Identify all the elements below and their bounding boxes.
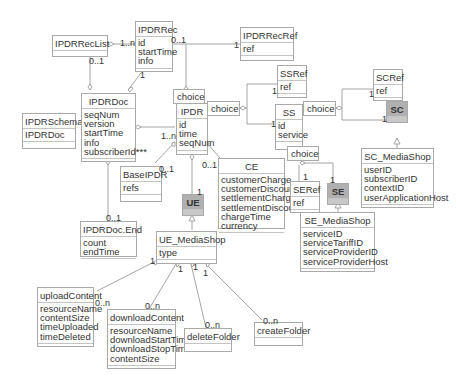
attribute: type bbox=[159, 248, 214, 257]
multiplicity-label: 0..1 bbox=[89, 56, 104, 66]
multiplicity-label: 0..n bbox=[145, 301, 160, 311]
multiplicity-label: 1 bbox=[178, 264, 183, 274]
attribute: contentSize bbox=[110, 354, 173, 363]
class-name: BaseIPDR bbox=[121, 167, 161, 182]
multiplicity-label: 1..n bbox=[161, 131, 176, 141]
class-ipdrdoc-end[interactable]: IPDRDoc.End count endTime bbox=[80, 221, 137, 257]
multiplicity-label: 0..n bbox=[95, 298, 110, 308]
operations-compartment bbox=[23, 142, 75, 150]
attributes-compartment: resourceName contentSize timeUploaded ti… bbox=[38, 303, 93, 344]
class-name: deleteFolder bbox=[185, 329, 231, 344]
class-ipdrrecref[interactable]: IPDRRecRef ref bbox=[240, 27, 294, 61]
multiplicity-label: 1 bbox=[234, 40, 239, 50]
class-name: IPDRSchema bbox=[23, 114, 75, 129]
class-name: UE_MediaShop bbox=[157, 232, 216, 247]
multiplicity-label: 1 bbox=[197, 187, 202, 197]
attribute: ref bbox=[243, 44, 291, 53]
attributes-compartment: IPDRDoc bbox=[23, 129, 75, 142]
attributes-compartment: refs bbox=[121, 182, 161, 195]
class-name: SCRef bbox=[374, 70, 402, 85]
operations-compartment bbox=[121, 195, 161, 203]
operations-compartment bbox=[278, 94, 306, 102]
operations-compartment bbox=[38, 344, 93, 352]
class-ipdr[interactable]: IPDR id time seqNum bbox=[176, 103, 208, 155]
multiplicity-label: 1 bbox=[203, 268, 208, 278]
attribute: ref bbox=[293, 198, 317, 207]
multiplicity-label: 1 bbox=[303, 172, 308, 182]
attribute: service bbox=[278, 130, 300, 139]
class-ssref[interactable]: SSRef ref bbox=[277, 65, 307, 98]
class-downloadcontent[interactable]: downloadContent resourceName downloadSta… bbox=[107, 309, 176, 369]
class-deletefolder[interactable]: deleteFolder bbox=[184, 328, 232, 352]
class-uploadcontent[interactable]: uploadContent resourceName contentSize t… bbox=[37, 287, 94, 347]
class-se[interactable]: SE bbox=[327, 183, 349, 205]
attribute: userApplicationHost bbox=[364, 193, 431, 202]
class-name: SSRef bbox=[278, 66, 306, 81]
class-name: SC_MediaShop bbox=[362, 149, 433, 164]
attribute: IPDRDoc bbox=[25, 130, 73, 139]
multiplicity-label: 1 bbox=[271, 119, 276, 129]
operations-compartment bbox=[387, 117, 407, 122]
class-name: SC bbox=[387, 102, 407, 117]
multiplicity-label: 0..1 bbox=[202, 160, 217, 170]
operations-compartment bbox=[157, 260, 216, 268]
multiplicity-label: 1 bbox=[140, 70, 145, 80]
class-seref[interactable]: SERef ref bbox=[290, 181, 320, 213]
class-name: IPDRDoc.End bbox=[81, 222, 136, 237]
class-ue-mediashop[interactable]: UE_MediaShop type bbox=[156, 231, 217, 264]
choice-se[interactable]: choice bbox=[287, 146, 319, 161]
operations-compartment bbox=[241, 56, 293, 64]
attribute: currency bbox=[221, 221, 282, 230]
operations-compartment bbox=[108, 366, 175, 374]
multiplicity-label: 1 bbox=[193, 262, 198, 272]
class-name: SERef bbox=[291, 182, 319, 197]
class-name: downloadContent bbox=[108, 310, 175, 325]
class-name: IPDRRecRef bbox=[241, 28, 293, 43]
class-scref[interactable]: SCRef ref bbox=[373, 69, 403, 101]
operations-compartment bbox=[255, 338, 302, 346]
attribute: endTime bbox=[83, 247, 134, 256]
class-createfolder[interactable]: createFolder bbox=[254, 322, 303, 346]
multiplicity-label: 1..n bbox=[120, 38, 135, 48]
multiplicity-label: 1 bbox=[369, 89, 374, 99]
choice-ipdrrec[interactable]: choice bbox=[173, 89, 205, 104]
class-ce[interactable]: CE customerCharge customerDiscount settl… bbox=[218, 158, 285, 229]
class-name: IPDRDoc bbox=[82, 94, 135, 109]
operations-compartment bbox=[328, 199, 348, 204]
class-ss[interactable]: SS id service bbox=[275, 104, 303, 150]
class-name: UE bbox=[183, 195, 203, 210]
operations-compartment bbox=[185, 344, 231, 352]
attributes-compartment: ref bbox=[241, 43, 293, 56]
choice-ss[interactable]: choice bbox=[303, 101, 336, 116]
attributes-compartment: ref bbox=[291, 197, 319, 210]
multiplicity-label: 0..1 bbox=[159, 164, 174, 174]
class-se-mediashop[interactable]: SE_MediaShop serviceID serviceTariffID s… bbox=[300, 212, 375, 272]
multiplicity-label: 1 bbox=[150, 256, 155, 266]
class-ipdrdoc[interactable]: IPDRDoc seqNum version startTime info su… bbox=[81, 93, 136, 162]
attributes-compartment: type bbox=[157, 247, 216, 260]
class-name: IPDR bbox=[177, 104, 207, 119]
class-name: SE bbox=[328, 184, 348, 199]
attributes-compartment: id time seqNum bbox=[177, 119, 207, 151]
attributes-compartment: id service bbox=[276, 120, 302, 142]
multiplicity-label: 1 bbox=[330, 175, 335, 185]
class-ue[interactable]: UE bbox=[182, 194, 204, 216]
class-sc[interactable]: SC bbox=[386, 101, 408, 123]
multiplicity-label: 0..n bbox=[205, 320, 220, 330]
class-name: uploadContent bbox=[38, 288, 93, 303]
choice-ipdr[interactable]: choice bbox=[207, 101, 240, 116]
attributes-compartment: serviceID serviceTariffID serviceProvide… bbox=[301, 228, 374, 269]
attribute: ref bbox=[376, 86, 400, 95]
attribute: refs bbox=[123, 183, 159, 192]
class-ipdrschema[interactable]: IPDRSchema IPDRDoc bbox=[22, 113, 76, 149]
class-name: IPDRRecList bbox=[53, 36, 107, 51]
attribute: timeDeleted bbox=[40, 332, 91, 341]
class-ipdrreclist[interactable]: IPDRRecList bbox=[52, 35, 108, 57]
multiplicity-label: 0..n bbox=[263, 316, 278, 326]
attribute: subscriberId*** bbox=[84, 147, 133, 156]
attributes-compartment: count endTime bbox=[81, 237, 136, 259]
class-ipdrrec[interactable]: IPDRRec id startTime info bbox=[135, 21, 173, 72]
class-name: SE_MediaShop bbox=[301, 213, 374, 228]
class-baseipdr[interactable]: BaseIPDR refs bbox=[120, 166, 162, 202]
class-sc-mediashop[interactable]: SC_MediaShop userID subscriberID context… bbox=[361, 148, 434, 208]
